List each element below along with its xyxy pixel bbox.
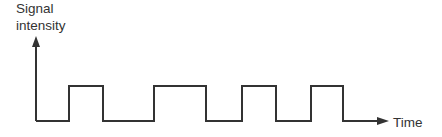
x-axis-label: Time bbox=[393, 114, 423, 131]
y-axis-arrow-icon bbox=[32, 36, 40, 47]
signal-waveform bbox=[36, 86, 380, 121]
x-axis-arrow-icon bbox=[377, 117, 389, 125]
chart-canvas bbox=[0, 0, 442, 137]
